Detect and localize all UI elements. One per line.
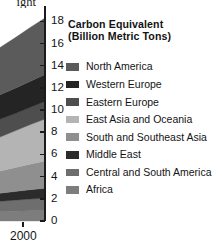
legend-title: Carbon Equivalent (Billion Metric Tons) [68, 18, 222, 43]
legend-label: South and Southeast Asia [86, 132, 207, 143]
y-axis-tick [40, 131, 45, 133]
y-axis-tick-label: 18 [51, 15, 64, 27]
y-axis: 181614121086420 [44, 0, 47, 250]
y-axis-tick [40, 43, 45, 45]
legend-swatch-icon [66, 98, 79, 106]
y-axis-tick [40, 220, 45, 222]
legend-row: Central and South America [66, 165, 222, 179]
legend-title-line-2: (Billion Metric Tons) [68, 30, 222, 42]
legend-label: North America [86, 61, 153, 72]
y-axis-tick-label: 2 [51, 193, 57, 205]
legend-row: Africa [66, 183, 222, 197]
legend-label: Western Europe [86, 79, 162, 90]
legend-row: Middle East [66, 148, 222, 162]
legend-label: Central and South America [86, 167, 212, 178]
y-axis-tick-label: 8 [51, 126, 57, 138]
legend-label: Middle East [86, 149, 141, 160]
legend-swatch-icon [66, 63, 79, 71]
y-axis-tick-label: 14 [51, 60, 64, 72]
legend-row: East Asia and Oceania [66, 113, 222, 127]
y-axis-line [44, 6, 46, 221]
y-axis-tick [40, 154, 45, 156]
y-axis-tick-label: 4 [51, 171, 57, 183]
y-axis-tick-label: 10 [51, 104, 64, 116]
legend-title-line-1: Carbon Equivalent [68, 18, 222, 30]
legend-swatch-icon [66, 186, 79, 194]
legend-label: Eastern Europe [86, 97, 159, 108]
y-axis-tick [40, 65, 45, 67]
y-axis-tick-label: 0 [51, 215, 57, 227]
area-series-africa [0, 210, 45, 221]
legend-row: Eastern Europe [66, 95, 222, 109]
y-axis-tick [40, 87, 45, 89]
legend-label: East Asia and Oceania [86, 114, 192, 125]
legend-swatch-icon [66, 81, 79, 89]
y-axis-tick-label: 12 [51, 82, 64, 94]
legend-row: South and Southeast Asia [66, 130, 222, 144]
legend-row: North America [66, 60, 222, 74]
y-axis-tick [40, 176, 45, 178]
x-axis-label-2000: 2000 [10, 229, 37, 243]
y-axis-tick [40, 109, 45, 111]
x-axis-tick [22, 222, 24, 227]
y-axis-tick-label: 16 [51, 38, 64, 50]
y-axis-tick [40, 198, 45, 200]
legend: Carbon Equivalent (Billion Metric Tons) … [66, 18, 222, 201]
legend-swatch-icon [66, 116, 79, 124]
legend-swatch-icon [66, 169, 79, 177]
legend-swatch-icon [66, 151, 79, 159]
legend-label: Africa [86, 184, 113, 195]
legend-item-list: North AmericaWestern EuropeEastern Europ… [66, 60, 222, 197]
chart-figure: ight uage as 181614121086420 2000 Carbon… [0, 0, 222, 250]
legend-swatch-icon [66, 133, 79, 141]
y-axis-tick-label: 6 [51, 148, 57, 160]
legend-row: Western Europe [66, 77, 222, 91]
y-axis-tick [40, 21, 45, 23]
